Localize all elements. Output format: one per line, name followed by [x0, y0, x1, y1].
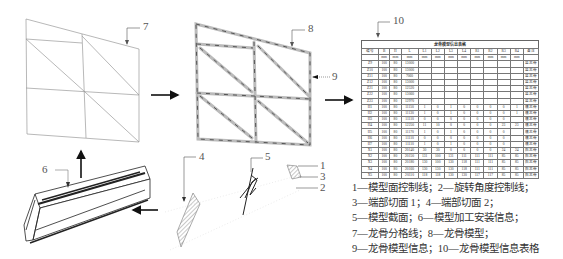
legend: 1—模型面控制线；2—旋转角度控制线； 3—端部切面 1；4—端部切面 2； 5…	[352, 180, 539, 256]
table-cell: 横龙骨	[523, 110, 538, 116]
callout-4: 4	[199, 150, 205, 162]
legend-line-4: 7—龙骨分格线；8—龙骨模型；	[352, 226, 539, 241]
table-cell: 竖龙骨	[523, 79, 538, 85]
table-cell: 竖龙骨	[523, 61, 538, 67]
table-cell: 130	[444, 172, 457, 178]
table-cell: 横龙骨	[523, 129, 538, 135]
table-cell: 竖龙骨	[523, 86, 538, 92]
grid-lines-panel	[26, 19, 139, 142]
table-cell: 80	[390, 172, 401, 178]
table-cell: X5	[362, 172, 379, 178]
end-cut-1	[287, 165, 301, 179]
legend-line-3: 5—模型截面；6—模型加工安装信息；	[352, 210, 539, 225]
table-cell: 竖龙骨	[523, 67, 538, 73]
table-cell: 117	[484, 172, 497, 178]
table-cell: 斜龙骨	[523, 160, 538, 166]
table-cell: 横龙骨	[523, 117, 538, 123]
table-cell: 85	[510, 172, 523, 178]
callout-7: 7	[143, 20, 149, 32]
model-section	[240, 168, 258, 215]
table-cell: 横龙骨	[523, 123, 538, 129]
callout-9: 9	[332, 70, 338, 82]
table-cell: 横龙骨	[523, 141, 538, 147]
table-cell: 130	[458, 172, 471, 178]
table-cell: 竖龙骨	[523, 92, 538, 98]
table-cell: 斜龙骨	[523, 148, 538, 154]
callout-6: 6	[42, 163, 48, 175]
table-row: X510080201101181181301301171178585斜龙骨	[362, 172, 539, 178]
keel-3d-piece	[24, 166, 150, 243]
keel-info-table: 龙骨模型信息表格 编号BHLL1L2L3L4R1R2R3R4备注mmmmmmmm…	[361, 40, 539, 179]
legend-line-5: 9—龙骨模型信息；10—龙骨模型信息表格	[352, 241, 539, 256]
end-cut-2	[177, 193, 200, 247]
callout-8: 8	[308, 22, 314, 34]
callout-5: 5	[265, 150, 271, 162]
callout-10: 10	[393, 14, 404, 26]
table-cell: 斜龙骨	[523, 166, 538, 172]
table-cell: 118	[418, 172, 431, 178]
table-cell: 85	[497, 172, 510, 178]
table-cell: 118	[431, 172, 444, 178]
table-cell: 117	[471, 172, 484, 178]
table-cell: 横龙骨	[523, 104, 538, 110]
table-cell: 100	[378, 172, 389, 178]
table-grid: 编号BHLL1L2L3L4R1R2R3R4备注mmmmmmmmmmmmmmmmm…	[361, 48, 539, 179]
legend-line-2: 3—端部切面 1；4—端部切面 2；	[352, 195, 539, 210]
table-cell: 斜龙骨	[523, 154, 538, 160]
table-cell: 横龙骨	[523, 135, 538, 141]
table-title: 龙骨模型信息表格	[361, 40, 539, 48]
callout-2: 2	[320, 181, 326, 193]
table-cell: 斜龙骨	[523, 172, 538, 178]
table-cell: 20110	[401, 172, 418, 178]
table-cell: 竖龙骨	[523, 73, 538, 79]
legend-line-1: 1—模型面控制线；2—旋转角度控制线；	[352, 180, 539, 195]
table-cell: 竖龙骨	[523, 98, 538, 104]
